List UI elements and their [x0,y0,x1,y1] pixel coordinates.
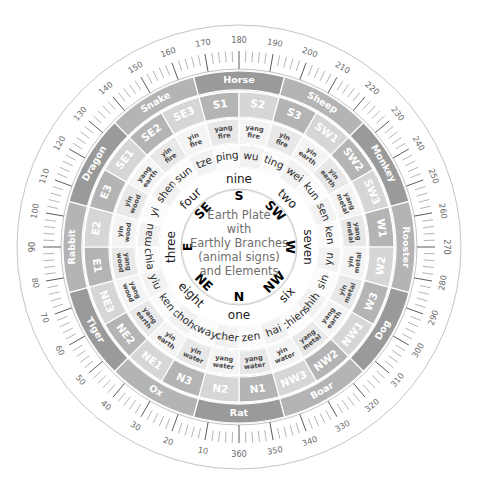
sector-label: E1 [91,258,105,274]
sector-label: S2 [250,97,266,111]
degree-tick-minor [124,88,130,97]
degree-tick-minor [147,74,152,84]
degree-tick-major [353,383,365,397]
degree-tick-major [141,401,150,417]
degree-tick-minor [166,419,170,429]
degree-tick-major [89,121,103,133]
degree-tick-minor [290,59,293,70]
degree-tick-minor [284,57,287,68]
degree-tick-minor [44,227,55,228]
degree-tick-minor [392,137,401,143]
degree-label: 200 [301,45,319,60]
degree-tick-minor [348,397,354,406]
degree-tick-minor [419,292,430,295]
degree-tick-minor [420,285,431,287]
degree-label: 270 [442,239,452,255]
degree-tick-minor [178,423,181,433]
degree-tick-major [393,336,409,345]
degree-tick-minor [185,59,188,70]
degree-tick-minor [135,404,141,413]
degree-tick-major [406,308,423,314]
degree-label: 220 [363,79,381,97]
degree-tick-minor [153,413,158,423]
degree-tick-major [46,278,64,281]
degree-label: 130 [71,104,89,122]
degree-tick-minor [402,155,412,160]
degree-tick-minor [118,393,125,402]
degree-tick-major [353,97,365,111]
degree-tick-major [89,361,103,373]
degree-tick-major [172,63,178,80]
degree-label: 60 [53,343,67,357]
degree-label: 320 [363,396,381,414]
degree-tick-minor [372,376,380,384]
degree-tick-minor [178,61,181,71]
degree-tick-minor [385,361,394,368]
degree-tick-minor [296,61,299,71]
direction-label: N [234,289,244,304]
element-label: yangmetal [345,220,363,243]
sector-label: N1 [249,381,267,395]
degree-tick-minor [422,220,433,222]
degree-tick-minor [47,206,58,208]
degree-tick-major [414,213,432,216]
degree-label: 40 [99,398,113,412]
degree-tick-minor [129,85,135,94]
degree-label: 160 [159,45,177,60]
degree-tick-minor [57,174,67,178]
degree-tick-minor [44,266,55,267]
degree-tick-minor [265,53,267,64]
degree-tick-minor [108,384,115,392]
degree-tick-minor [326,74,331,84]
sector-label: E2 [89,220,103,236]
degree-tick-minor [124,397,130,406]
degree-tick-minor [402,334,412,339]
degree-tick-minor [368,380,376,388]
degree-tick-minor [363,101,370,109]
degree-tick-minor [135,81,141,90]
branch-label: yu [321,252,335,266]
degree-tick-minor [43,233,54,234]
degree-tick-minor [93,371,101,378]
degree-tick-minor [57,316,67,320]
degree-tick-minor [337,404,343,413]
branch-label: ken [323,225,337,245]
degree-label: 70 [38,311,51,324]
degree-tick-minor [192,57,195,68]
degree-label: 90 [27,242,37,252]
animal-label: Rabbit [66,229,77,265]
degree-tick-minor [159,416,163,426]
degree-label: 210 [333,59,352,75]
degree-tick-minor [408,322,418,326]
degree-label: 330 [333,418,352,434]
degree-tick-minor [51,193,62,196]
degree-tick-major [46,213,64,216]
degree-tick-minor [422,273,433,275]
degree-label: 230 [389,104,407,122]
degree-tick-minor [66,155,76,160]
degree-tick-minor [53,304,63,307]
degree-tick-minor [103,106,111,114]
degree-tick-major [270,54,273,72]
degree-label: 100 [28,202,41,219]
degree-label: 140 [96,79,114,97]
degree-tick-minor [219,431,220,442]
degree-tick-minor [153,71,158,81]
degree-tick-minor [353,93,360,102]
degree-tick-minor [98,376,106,384]
sector-label: W2 [373,255,387,275]
degree-tick-major [55,180,72,186]
degree-tick-minor [372,111,380,119]
degree-tick-minor [43,260,54,261]
degree-tick-major [406,180,423,186]
degree-label: 110 [37,167,52,185]
degree-label: 20 [162,435,175,448]
degree-label: 250 [427,167,442,185]
degree-tick-minor [411,174,421,178]
degree-tick-minor [252,432,253,443]
degree-tick-minor [376,371,384,378]
animal-label: Rooster [401,226,412,268]
degree-tick-minor [212,430,214,441]
degree-label: 120 [51,134,67,153]
degree-label: 30 [129,419,143,433]
